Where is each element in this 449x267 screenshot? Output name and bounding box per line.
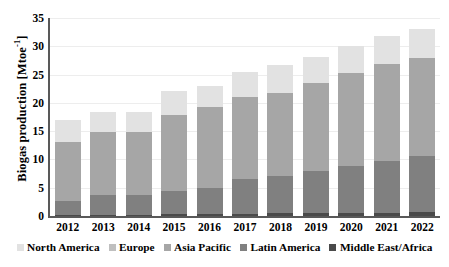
y-axis-tick-label: 20 (16, 97, 44, 109)
bar-column[interactable] (161, 18, 187, 216)
bar-segment[interactable] (338, 213, 364, 216)
bar-column[interactable] (232, 18, 258, 216)
bar-column[interactable] (409, 18, 435, 216)
bar-segment[interactable] (90, 195, 116, 215)
legend-swatch-icon (164, 244, 171, 251)
plot-area: 05101520253035 (48, 18, 440, 218)
bar-column[interactable] (90, 18, 116, 216)
bar-segment[interactable] (126, 132, 152, 195)
legend-label: Latin America (250, 241, 320, 253)
legend-swatch-icon (109, 244, 116, 251)
legend-swatch-icon (240, 244, 247, 251)
bar-segment[interactable] (90, 132, 116, 195)
bar-segment[interactable] (409, 29, 435, 58)
bar-segment[interactable] (197, 107, 223, 188)
bar-segment[interactable] (55, 142, 81, 201)
legend-label: Middle East/Africa (340, 241, 433, 253)
legend-swatch-icon (17, 244, 24, 251)
bar-segment[interactable] (126, 195, 152, 215)
bar-segment[interactable] (374, 64, 400, 160)
bar-segment[interactable] (232, 214, 258, 216)
bar-segment[interactable] (232, 179, 258, 214)
chart-root: Biogas production [Mtoe-1] 0510152025303… (0, 0, 449, 267)
bar-segment[interactable] (161, 191, 187, 215)
bar-segment[interactable] (90, 215, 116, 216)
bar-segment[interactable] (197, 214, 223, 216)
x-axis-tick-label: 2015 (157, 221, 191, 233)
x-axis-tick-label: 2014 (122, 221, 156, 233)
legend-label: Europe (119, 241, 155, 253)
x-axis-line (48, 216, 440, 218)
bar-segment[interactable] (374, 36, 400, 65)
bar-segment[interactable] (303, 171, 329, 213)
bar-column[interactable] (55, 18, 81, 216)
bar-segment[interactable] (303, 213, 329, 216)
bar-column[interactable] (197, 18, 223, 216)
x-axis-tick-label: 2022 (405, 221, 439, 233)
bar-column[interactable] (374, 18, 400, 216)
x-axis-tick-label: 2018 (263, 221, 297, 233)
bar-segment[interactable] (374, 213, 400, 216)
bar-column[interactable] (126, 18, 152, 216)
bar-segment[interactable] (55, 215, 81, 216)
bar-segment[interactable] (303, 57, 329, 82)
bar-segment[interactable] (55, 201, 81, 215)
bar-segment[interactable] (161, 115, 187, 190)
bar-segment[interactable] (197, 86, 223, 106)
legend-item[interactable]: Latin America (240, 241, 320, 253)
bar-segment[interactable] (267, 93, 293, 177)
y-axis-tick-label: 30 (16, 40, 44, 52)
legend-label: North America (27, 241, 99, 253)
x-axis-tick-label: 2017 (228, 221, 262, 233)
y-axis-tick-label: 0 (16, 210, 44, 222)
legend-item[interactable]: Middle East/Africa (329, 241, 432, 253)
bar-segment[interactable] (161, 214, 187, 216)
bar-segment[interactable] (409, 212, 435, 216)
bar-column[interactable] (303, 18, 329, 216)
x-axis-tick-label: 2012 (51, 221, 85, 233)
bar-segment[interactable] (126, 112, 152, 132)
bar-segment[interactable] (409, 58, 435, 156)
bar-segment[interactable] (90, 112, 116, 132)
bar-segment[interactable] (267, 213, 293, 216)
bar-segment[interactable] (55, 120, 81, 141)
bar-column[interactable] (338, 18, 364, 216)
y-axis-tick-label: 15 (16, 125, 44, 137)
bar-segment[interactable] (267, 176, 293, 213)
x-axis-tick-label: 2013 (86, 221, 120, 233)
x-axis-tick-label: 2020 (334, 221, 368, 233)
bar-segment[interactable] (338, 166, 364, 213)
bar-segment[interactable] (232, 97, 258, 179)
bar-column[interactable] (267, 18, 293, 216)
bar-segment[interactable] (409, 156, 435, 212)
y-axis-title-tail: ] (15, 35, 29, 39)
bar-segment[interactable] (338, 46, 364, 74)
x-axis-tick-label: 2016 (193, 221, 227, 233)
y-axis-tick-label: 25 (16, 69, 44, 81)
bar-segment[interactable] (338, 73, 364, 165)
legend-label: Asia Pacific (174, 241, 231, 253)
x-axis-labels: 2012201320142015201620172018201920202021… (50, 221, 440, 233)
y-axis-tick-label: 35 (16, 12, 44, 24)
legend-item[interactable]: Asia Pacific (164, 241, 231, 253)
x-axis-tick-label: 2021 (370, 221, 404, 233)
bar-segment[interactable] (197, 188, 223, 214)
legend-item[interactable]: Europe (109, 241, 155, 253)
bar-segment[interactable] (374, 161, 400, 213)
legend-item[interactable]: North America (17, 241, 100, 253)
bar-series-layer (50, 18, 440, 216)
chart-legend: North AmericaEuropeAsia PacificLatin Ame… (0, 241, 449, 253)
bar-segment[interactable] (161, 91, 187, 115)
y-axis-tick-label: 10 (16, 153, 44, 165)
y-axis-tick-label: 5 (16, 182, 44, 194)
bar-segment[interactable] (267, 65, 293, 93)
bar-segment[interactable] (303, 83, 329, 171)
legend-swatch-icon (329, 244, 336, 251)
bar-segment[interactable] (126, 215, 152, 216)
bar-segment[interactable] (232, 72, 258, 97)
x-axis-tick-label: 2019 (299, 221, 333, 233)
